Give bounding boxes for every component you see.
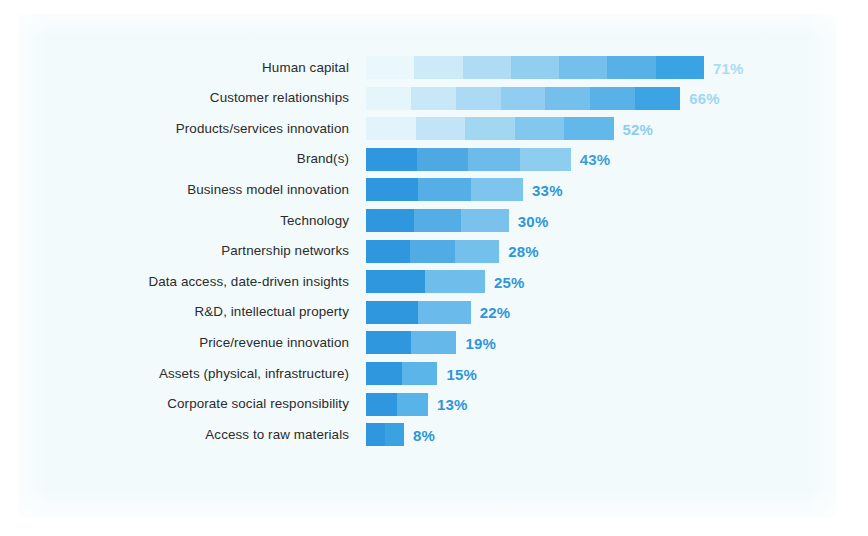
bar-rect — [366, 117, 614, 140]
bar-category-label: R&D, intellectual property — [18, 305, 358, 320]
bar-rect — [366, 423, 404, 446]
bar-rect — [366, 148, 571, 171]
bar-row: Data access, date-driven insights25% — [18, 270, 836, 293]
bar-value-label: 66% — [689, 90, 720, 107]
bar-row: Assets (physical, infrastructure)15% — [18, 362, 836, 385]
bar-category-label: Customer relationships — [18, 90, 358, 105]
bar-category-label: Human capital — [18, 60, 358, 75]
bar-category-label: Partnership networks — [18, 243, 358, 258]
bar-row: Partnership networks28% — [18, 240, 836, 263]
bar-rect — [366, 56, 704, 79]
bar-rect — [366, 209, 509, 232]
bar-value-label: 13% — [437, 396, 468, 413]
bar-chart-plot: Human capital71%Customer relationships66… — [18, 14, 836, 517]
bar-value-label: 52% — [623, 120, 654, 137]
bar-rect — [366, 331, 456, 354]
bar-value-label: 33% — [532, 181, 563, 198]
bar-value-label: 25% — [494, 273, 525, 290]
bar-rect — [366, 301, 471, 324]
bar-value-label: 15% — [446, 365, 477, 382]
bar-rect — [366, 362, 437, 385]
bar-value-label: 8% — [413, 426, 435, 443]
bar-category-label: Products/services innovation — [18, 121, 358, 136]
bar-category-label: Assets (physical, infrastructure) — [18, 366, 358, 381]
bar-row: Access to raw materials8% — [18, 423, 836, 446]
bar-value-label: 28% — [508, 243, 539, 260]
bar-value-label: 43% — [580, 151, 611, 168]
bar-value-label: 19% — [465, 334, 496, 351]
bar-row: Customer relationships66% — [18, 87, 836, 110]
bar-rect — [366, 270, 485, 293]
bar-row: Technology30% — [18, 209, 836, 232]
bar-value-label: 30% — [518, 212, 549, 229]
bar-category-label: Business model innovation — [18, 182, 358, 197]
bar-rect — [366, 393, 428, 416]
bar-rect — [366, 240, 499, 263]
bar-category-label: Price/revenue innovation — [18, 335, 358, 350]
bar-rect — [366, 87, 680, 110]
bar-category-label: Access to raw materials — [18, 427, 358, 442]
bar-value-label: 71% — [713, 59, 744, 76]
bar-row: Products/services innovation52% — [18, 117, 836, 140]
bar-row: Price/revenue innovation19% — [18, 331, 836, 354]
bar-rect — [366, 178, 523, 201]
bar-row: Brand(s)43% — [18, 148, 836, 171]
bar-row: Business model innovation33% — [18, 178, 836, 201]
bar-category-label: Technology — [18, 213, 358, 228]
bar-category-label: Brand(s) — [18, 152, 358, 167]
chart-panel: Human capital71%Customer relationships66… — [18, 14, 836, 517]
bar-value-label: 22% — [480, 304, 511, 321]
bar-row: R&D, intellectual property22% — [18, 301, 836, 324]
bar-category-label: Corporate social responsibility — [18, 396, 358, 411]
bar-row: Corporate social responsibility13% — [18, 393, 836, 416]
bar-category-label: Data access, date-driven insights — [18, 274, 358, 289]
bar-row: Human capital71% — [18, 56, 836, 79]
